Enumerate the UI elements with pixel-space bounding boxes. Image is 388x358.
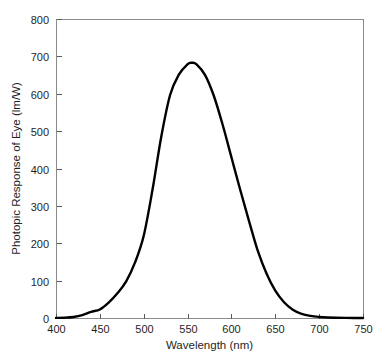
y-tick-label: 500: [31, 126, 49, 138]
y-tick-label: 800: [31, 14, 49, 26]
y-tick-label: 0: [43, 313, 49, 325]
x-tick-label: 650: [266, 323, 284, 335]
y-axis-title: Photopic Response of Eye (lm/W): [10, 82, 22, 255]
y-tick-label: 300: [31, 201, 49, 213]
x-tick-label: 550: [179, 323, 197, 335]
y-tick-label: 700: [31, 51, 49, 63]
x-tick-label: 600: [222, 323, 240, 335]
y-tick-label: 600: [31, 89, 49, 101]
y-tick-label: 200: [31, 238, 49, 250]
photopic-response-chart: 400450500550600650700750Wavelength (nm)0…: [0, 0, 388, 358]
chart-figure: 400450500550600650700750Wavelength (nm)0…: [0, 0, 388, 358]
x-tick-label: 400: [47, 323, 65, 335]
figure-background: [0, 0, 388, 358]
x-tick-label: 500: [135, 323, 153, 335]
x-tick-label: 450: [91, 323, 109, 335]
x-axis-title: Wavelength (nm): [166, 339, 253, 351]
y-tick-label: 100: [31, 276, 49, 288]
y-tick-label: 400: [31, 164, 49, 176]
x-tick-label: 700: [310, 323, 328, 335]
x-tick-label: 750: [354, 323, 372, 335]
